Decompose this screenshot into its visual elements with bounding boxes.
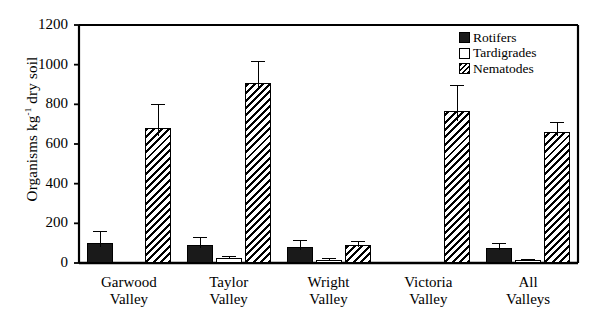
error-bar-line	[300, 240, 301, 249]
legend-swatch-open-icon	[459, 48, 470, 59]
legend-item-rotifers: Rotifers	[459, 30, 537, 45]
error-bar-cap	[492, 243, 506, 244]
bar-nematodes-wright-valley	[345, 245, 371, 263]
y-axis-tick-label: 1000	[22, 57, 68, 72]
y-axis-tick-label: 200	[22, 215, 68, 230]
legend-swatch-solid-icon	[459, 32, 470, 43]
x-axis-tick-label: WrightValley	[274, 274, 384, 308]
legend-label: Tardigrades	[473, 45, 537, 60]
error-bar-line	[457, 85, 458, 121]
bar-nematodes-garwood-valley	[145, 128, 171, 263]
error-bar-cap	[222, 256, 236, 257]
legend: RotifersTardigradesNematodes	[459, 30, 537, 76]
x-axis-tick-label-line: Victoria	[373, 274, 483, 291]
x-axis-tick-label: GarwoodValley	[74, 274, 184, 308]
error-bar-line	[158, 104, 159, 136]
error-bar-cap	[550, 122, 564, 123]
x-axis-tick-label-line: Valley	[274, 291, 384, 308]
bar-nematodes-taylor-valley	[245, 83, 271, 263]
error-bar-cap	[193, 237, 207, 238]
bar-tardigrades-taylor-valley	[216, 258, 242, 263]
x-axis-tick-label-line: Valley	[74, 291, 184, 308]
bar-tardigrades-victoria-valley	[415, 262, 441, 264]
x-axis-tick-label: TaylorValley	[174, 274, 284, 308]
y-axis-tick-label: 600	[22, 136, 68, 151]
error-bar-cap	[392, 262, 406, 263]
bar-tardigrades-garwood-valley	[116, 262, 142, 264]
y-axis-tick-label: 800	[22, 96, 68, 111]
bar-rotifers-all-valleys	[486, 248, 512, 263]
x-axis-tick-label-line: Garwood	[74, 274, 184, 291]
error-bar-cap	[293, 240, 307, 241]
y-axis-tick-label: 400	[22, 176, 68, 191]
x-axis-tick-label: VictoriaValley	[373, 274, 483, 308]
error-bar-line	[258, 61, 259, 90]
error-bar-cap	[351, 241, 365, 242]
error-bar-cap	[151, 104, 165, 105]
legend-label: Rotifers	[473, 30, 517, 45]
error-bar-line	[499, 243, 500, 250]
y-axis-tick-label: 1200	[22, 17, 68, 32]
error-bar-cap	[450, 85, 464, 86]
x-axis-tick-label-line: Wright	[274, 274, 384, 291]
bar-nematodes-victoria-valley	[444, 111, 470, 263]
error-bar-line	[200, 237, 201, 248]
legend-label: Nematodes	[473, 61, 534, 76]
bar-nematodes-all-valleys	[544, 132, 570, 263]
x-axis-tick-label-line: All	[473, 274, 583, 291]
error-bar-cap	[322, 258, 336, 259]
legend-item-tardigrades: Tardigrades	[459, 45, 537, 60]
y-axis-tick-label: 0	[22, 255, 68, 270]
error-bar-cap	[521, 259, 535, 260]
x-axis-tick-label-line: Valley	[373, 291, 483, 308]
x-axis-tick-label-line: Valleys	[473, 291, 583, 308]
x-axis-tick-label: AllValleys	[473, 274, 583, 308]
bar-chart: Organisms kg-1 dry soil 0200400600800100…	[0, 0, 597, 324]
x-axis-tick-label-line: Valley	[174, 291, 284, 308]
legend-item-nematodes: Nematodes	[459, 61, 537, 76]
error-bar-cap	[93, 231, 107, 232]
error-bar-cap	[251, 61, 265, 62]
error-bar-line	[100, 231, 101, 247]
x-axis-tick-label-line: Taylor	[174, 274, 284, 291]
legend-swatch-hatch-icon	[459, 63, 470, 74]
error-bar-line	[557, 122, 558, 136]
